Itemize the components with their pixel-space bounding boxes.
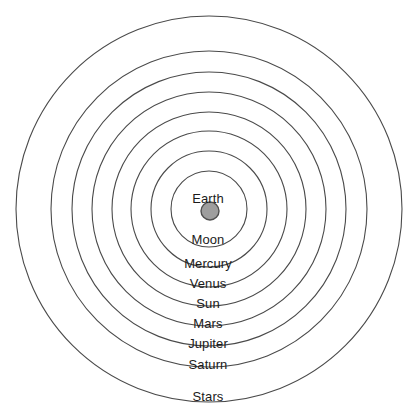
label-moon: Moon [0, 233, 416, 246]
geocentric-diagram: Earth Moon Mercury Venus Sun Mars Jupite… [0, 0, 416, 419]
label-saturn: Saturn [0, 358, 416, 371]
label-earth: Earth [0, 192, 416, 205]
label-jupiter: Jupiter [0, 337, 416, 350]
label-sun: Sun [0, 297, 416, 310]
label-mercury: Mercury [0, 257, 416, 270]
label-venus: Venus [0, 277, 416, 290]
label-mars: Mars [0, 317, 416, 330]
label-stars: Stars [0, 390, 416, 403]
